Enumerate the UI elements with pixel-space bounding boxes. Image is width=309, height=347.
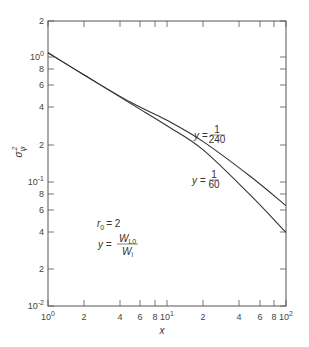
svg-text:σψ2: σψ2 bbox=[11, 146, 27, 157]
x-tick-label: 100 bbox=[41, 310, 55, 322]
y-tick-label: 4 bbox=[39, 227, 44, 237]
x-axis-label: x bbox=[159, 325, 166, 336]
svg-text:y =: y = bbox=[193, 130, 208, 141]
plot-frame bbox=[48, 21, 286, 306]
y-tick-label: 8 bbox=[39, 189, 44, 199]
x-tick-label: 101 bbox=[160, 310, 174, 322]
curve-y-1-240 bbox=[48, 53, 286, 206]
curve-y-1-60 bbox=[48, 53, 286, 233]
x-tick-label: 6 bbox=[137, 312, 142, 322]
y-tick-label: 10-2 bbox=[28, 299, 44, 311]
annotation-r0: r0= 2 bbox=[97, 218, 121, 231]
x-tick-label: 4 bbox=[117, 312, 122, 322]
svg-text:Wi: Wi bbox=[122, 246, 133, 258]
svg-text:WL0: WL0 bbox=[119, 233, 136, 245]
svg-text:60: 60 bbox=[208, 179, 220, 190]
x-tick-label: 8 bbox=[271, 312, 276, 322]
svg-text:r0= 2: r0= 2 bbox=[97, 218, 121, 231]
x-tick-label: 2 bbox=[81, 312, 86, 322]
x-tick-label: 102 bbox=[279, 310, 293, 322]
x-tick-label: 8 bbox=[152, 312, 157, 322]
y-tick-label: 6 bbox=[39, 205, 44, 215]
x-tick-label: 6 bbox=[257, 312, 262, 322]
svg-text:y =: y = bbox=[191, 175, 206, 186]
y-tick-label: 6 bbox=[39, 80, 44, 90]
y-tick-label: 2 bbox=[39, 16, 44, 26]
annotation-y-1-60: y = 1 60 bbox=[191, 169, 220, 190]
svg-text:240: 240 bbox=[209, 134, 226, 145]
y-tick-label: 4 bbox=[39, 102, 44, 112]
x-tick-label: 4 bbox=[236, 312, 241, 322]
x-axis-ticks: 10024681012468102 bbox=[41, 21, 293, 322]
y-axis-label: σψ2 bbox=[11, 146, 27, 157]
x-tick-label: 2 bbox=[200, 312, 205, 322]
y-tick-label: 10-1 bbox=[28, 175, 44, 187]
annotation-y-ratio: y = WL0 Wi bbox=[97, 233, 138, 258]
y-tick-label: 100 bbox=[30, 50, 44, 62]
svg-text:y =: y = bbox=[97, 239, 112, 250]
y-tick-label: 2 bbox=[39, 140, 44, 150]
y-axis-ticks: 2100864210-1864210-2 bbox=[28, 16, 286, 311]
y-tick-label: 8 bbox=[39, 64, 44, 74]
annotation-y-1-240: y = 1 240 bbox=[193, 124, 226, 145]
y-tick-label: 2 bbox=[39, 264, 44, 274]
chart: 10024681012468102 2100864210-1864210-2 x… bbox=[0, 0, 309, 347]
